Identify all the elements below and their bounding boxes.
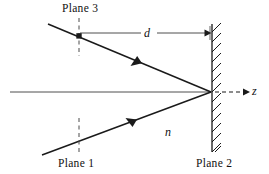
diagram-canvas [0, 0, 269, 174]
incident-ray-line [42, 92, 211, 155]
plane-3-node-square [76, 33, 81, 38]
label-axis-z: z [252, 85, 257, 97]
label-plane-1: Plane 1 [58, 158, 94, 170]
label-distance-d: d [144, 27, 150, 39]
label-plane-2: Plane 2 [196, 158, 232, 170]
dimension-arrowhead [205, 30, 212, 37]
label-refractive-index-n: n [165, 126, 171, 138]
incident-ray [42, 92, 211, 155]
reflected-ray-arrowhead [131, 56, 143, 66]
reflected-ray [48, 24, 211, 92]
mirror-hatching [212, 23, 221, 152]
plane-3-marker [76, 18, 81, 56]
z-axis-arrow [215, 88, 250, 95]
z-axis-arrowhead [243, 88, 250, 95]
ray-diagram-figure: Plane 3 Plane 1 Plane 2 d n z [0, 0, 269, 174]
mirror-plane-2 [212, 23, 221, 152]
reflected-ray-line [48, 24, 211, 92]
label-plane-3: Plane 3 [62, 3, 98, 15]
